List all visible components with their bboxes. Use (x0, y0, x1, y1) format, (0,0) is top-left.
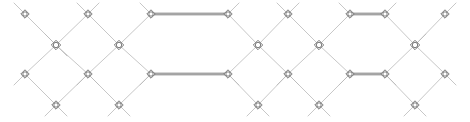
node-circle-outline (255, 42, 260, 47)
node-circle-outline (413, 103, 417, 107)
node-circle-outline (23, 72, 27, 76)
node-circle-outline (117, 103, 121, 107)
node-circle-outline (317, 103, 321, 107)
node-circle-outline (286, 72, 290, 76)
node-circle-outline (53, 42, 58, 47)
node-circle-outline (383, 12, 387, 16)
figure-background (0, 0, 470, 122)
node-circle-outline (348, 72, 352, 76)
node-circle-outline (116, 42, 121, 47)
lattice-canvas (0, 0, 470, 122)
node-circle-outline (412, 42, 417, 47)
node-circle-outline (443, 12, 447, 16)
lattice-diagram (0, 0, 470, 122)
node-circle-outline (86, 72, 90, 76)
node-circle-outline (348, 12, 352, 16)
node-circle-outline (286, 12, 290, 16)
node-circle-outline (23, 12, 27, 16)
node-circle-outline (316, 42, 321, 47)
node-circle-outline (383, 72, 387, 76)
node-circle-outline (54, 103, 58, 107)
node-circle-outline (86, 12, 90, 16)
node-circle-outline (443, 72, 447, 76)
node-circle-outline (226, 72, 230, 76)
node-circle-outline (226, 12, 230, 16)
node-circle-outline (149, 72, 153, 76)
node-circle-outline (149, 12, 153, 16)
node-circle-outline (256, 103, 260, 107)
